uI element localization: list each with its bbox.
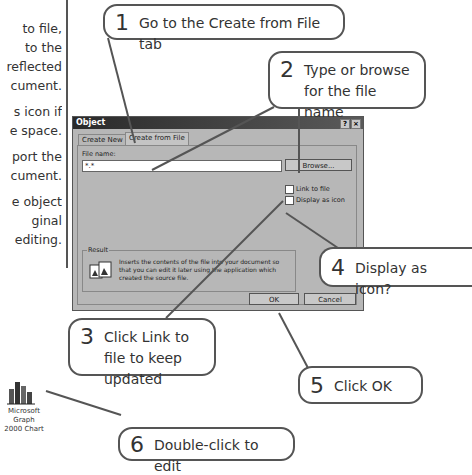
callout-number: 3 [80,324,94,350]
side-text-line: s icon if [0,102,62,121]
callout-text: Click Link to file to keep updated [104,324,204,390]
icon-label-line: 2000 Chart [0,425,48,434]
callout-6: 6 Double-click to edit [118,427,295,461]
file-name-input[interactable]: *.* [82,160,282,172]
result-label: Result [87,246,109,254]
file-name-label: File name: [82,150,116,158]
callout-text: Double-click to edit [154,432,283,475]
cancel-button[interactable]: Cancel [304,293,356,305]
callout-text: Click OK [334,373,392,397]
side-paragraph-2: s icon if e space. [0,102,62,140]
margin-divider [66,0,68,268]
side-text-line: ginal [0,211,62,230]
ok-button[interactable]: OK [249,293,299,305]
side-text-line: port the [0,147,62,166]
callout-number: 1 [115,10,129,36]
side-text-line: to file, [0,19,62,38]
object-dialog: Object ? × Create New Create from File F… [72,116,364,311]
callout-number: 5 [310,373,324,399]
side-text-line: e space. [0,121,62,140]
display-as-icon-label: Display as icon [296,196,345,204]
callout-number: 4 [331,255,345,281]
side-text-line: e object [0,192,62,211]
side-text-line: cument. [0,76,62,95]
link-to-file-checkbox[interactable] [285,185,294,194]
link-to-file-label: Link to file [296,185,330,193]
callout-text: Display as icon? [355,255,462,300]
tab-create-from-file[interactable]: Create from File [125,132,189,146]
side-text-line: to the [0,38,62,57]
side-text-line: cument. [0,166,62,185]
leader-line-6 [46,391,121,415]
callout-text: Go to the Create from File tab [139,10,333,55]
leader-line-5 [279,313,308,368]
microsoft-graph-chart-icon[interactable] [6,379,36,405]
icon-label-line: Microsoft Graph [0,407,48,425]
side-text-line: reflected [0,57,62,76]
result-description: Inserts the contents of the file into yo… [119,258,291,282]
callout-4: 4 Display as icon? [319,247,472,287]
side-paragraph-4: e object ginal editing. [0,192,62,249]
browse-button[interactable]: Browse... [285,159,352,171]
callout-5: 5 Click OK [298,366,423,404]
callout-number: 2 [280,57,294,83]
side-paragraph-1: to file, to the reflected cument. [0,19,62,95]
tab-panel: File name: *.* Browse... Link to file Di… [77,145,357,305]
desktop-icon-label: Microsoft Graph 2000 Chart [0,407,48,434]
side-text-line: editing. [0,230,62,249]
callout-number: 6 [130,432,144,458]
side-paragraph-3: port the cument. [0,147,62,185]
callout-2: 2 Type or browse for the file name [268,51,426,109]
display-as-icon-checkbox[interactable] [285,196,294,205]
result-document-icon [89,261,113,281]
callout-text: Type or browse for the file name [304,57,414,123]
dialog-title: Object [76,118,105,127]
callout-3: 3 Click Link to file to keep updated [68,318,216,376]
result-group: Result Inserts the contents of the file … [82,250,296,292]
callout-1: 1 Go to the Create from File tab [103,4,345,40]
